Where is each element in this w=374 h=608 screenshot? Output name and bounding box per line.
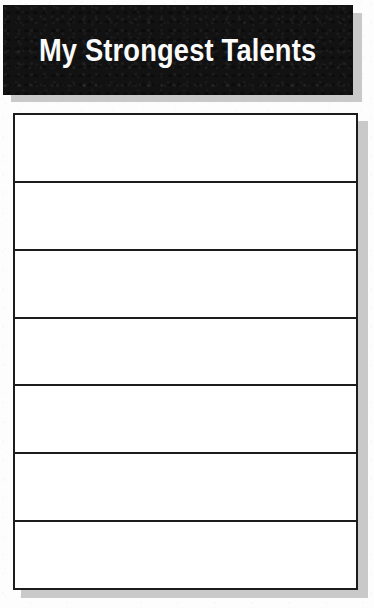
table-row[interactable] — [15, 319, 356, 387]
table-row[interactable] — [15, 251, 356, 319]
page-title: My Strongest Talents — [39, 35, 316, 66]
table-row[interactable] — [15, 454, 356, 522]
header-banner: My Strongest Talents — [3, 5, 353, 95]
talents-table — [13, 113, 358, 590]
table-row[interactable] — [15, 386, 356, 454]
table-row[interactable] — [15, 183, 356, 251]
worksheet-page: My Strongest Talents — [0, 0, 374, 608]
table-row[interactable] — [15, 522, 356, 588]
table-row[interactable] — [15, 115, 356, 183]
